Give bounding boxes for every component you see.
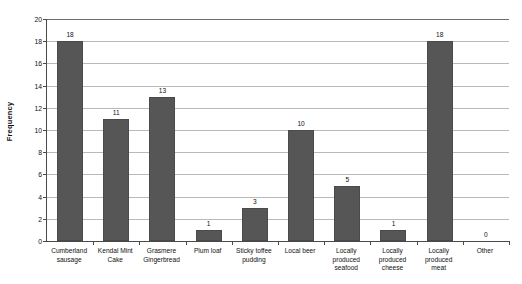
bar-chart-figure: Frequency 02468101214161820 181113131051… [0, 0, 522, 284]
bar[interactable] [149, 97, 175, 241]
y-axis-title: Frequency [2, 0, 18, 242]
bar[interactable] [427, 41, 453, 241]
x-axis-category-label-line: produced [416, 256, 462, 265]
x-axis-category-label: Plum loaf [185, 247, 231, 256]
bars-layer: 181113131051180 [47, 19, 509, 241]
y-axis-tick-label: 2 [38, 215, 42, 222]
bar-slot: 10 [278, 19, 324, 241]
y-axis-tick-label: 8 [38, 149, 42, 156]
bar-slot: 1 [370, 19, 416, 241]
y-axis-tick-label: 12 [34, 104, 42, 111]
bar-slot: 11 [93, 19, 139, 241]
x-axis-category-label-line: Cumberland [46, 247, 92, 256]
x-axis-category-label-line: Plum loaf [185, 247, 231, 256]
x-axis-category-label-line: Local beer [277, 247, 323, 256]
x-axis-category-label-line: pudding [231, 256, 277, 265]
x-axis-category-label-line: Gingerbread [138, 256, 184, 265]
x-axis-category-label-line: Grasmere [138, 247, 184, 256]
x-axis-tick-mark [93, 241, 94, 245]
y-axis-title-text: Frequency [6, 101, 15, 141]
x-axis-category-label: Other [462, 247, 508, 256]
x-axis-category-label: GrasmereGingerbread [138, 247, 184, 264]
x-axis-category-label-line: Locally [369, 247, 415, 256]
bar[interactable] [103, 119, 129, 241]
x-axis-category-label: Cumberlandsausage [46, 247, 92, 264]
bar[interactable] [57, 41, 83, 241]
y-axis-tick-label: 14 [34, 82, 42, 89]
y-axis-tick-label: 0 [38, 238, 42, 245]
plot-area: 02468101214161820 181113131051180 [46, 19, 509, 242]
x-axis-tick-mark [232, 241, 233, 245]
bar-value-label: 11 [113, 109, 120, 116]
bar-value-label: 1 [392, 220, 396, 227]
x-axis-tick-mark [463, 241, 464, 245]
x-axis-category-label: Local beer [277, 247, 323, 256]
x-axis-category-label-line: produced [323, 256, 369, 265]
bar-value-label: 18 [66, 31, 73, 38]
x-axis-category-labels: CumberlandsausageKendal MintCakeGrasmere… [46, 247, 508, 283]
x-axis-tick-mark [186, 241, 187, 245]
x-axis-category-label-line: meat [416, 264, 462, 273]
x-axis-category-label: Kendal MintCake [92, 247, 138, 264]
x-axis-category-label-line: Kendal Mint [92, 247, 138, 256]
bar[interactable] [242, 208, 268, 241]
bar[interactable] [334, 186, 360, 242]
x-axis-category-label-line: Sticky toffee [231, 247, 277, 256]
bar[interactable] [196, 230, 222, 241]
bar-slot: 3 [232, 19, 278, 241]
bar-slot: 18 [417, 19, 463, 241]
bar-value-label: 1 [207, 220, 211, 227]
x-axis-category-label-line: sausage [46, 256, 92, 265]
y-axis-tick-label: 4 [38, 193, 42, 200]
y-axis-tick-mark [43, 241, 47, 242]
bar-value-label: 0 [484, 231, 488, 238]
bar-slot: 18 [47, 19, 93, 241]
y-axis-tick-label: 16 [34, 60, 42, 67]
x-axis-tick-mark [324, 241, 325, 245]
y-axis-tick-label: 20 [34, 16, 42, 23]
bar-slot: 1 [186, 19, 232, 241]
bar-value-label: 5 [345, 176, 349, 183]
bar[interactable] [288, 130, 314, 241]
bar-value-label: 13 [159, 87, 166, 94]
x-axis-category-label-line: Locally [416, 247, 462, 256]
bar-value-label: 10 [297, 120, 304, 127]
bar[interactable] [380, 230, 406, 241]
x-axis-tick-mark [278, 241, 279, 245]
x-axis-category-label: Sticky toffeepudding [231, 247, 277, 264]
x-axis-tick-mark [370, 241, 371, 245]
x-axis-category-label: Locallyproducedmeat [416, 247, 462, 273]
x-axis-tick-mark [509, 241, 510, 245]
x-axis-category-label-line: Locally [323, 247, 369, 256]
x-axis-category-label: Locallyproducedseafood [323, 247, 369, 273]
bar-slot: 5 [324, 19, 370, 241]
x-axis-category-label-line: cheese [369, 264, 415, 273]
x-axis-category-label: Locallyproducedcheese [369, 247, 415, 273]
x-axis-tick-mark [139, 241, 140, 245]
x-axis-category-label-line: Other [462, 247, 508, 256]
bar-value-label: 18 [436, 31, 443, 38]
x-axis-category-label-line: seafood [323, 264, 369, 273]
bar-value-label: 3 [253, 198, 257, 205]
y-axis-tick-label: 6 [38, 171, 42, 178]
x-axis-tick-mark [417, 241, 418, 245]
x-axis-category-label-line: Cake [92, 256, 138, 265]
y-axis-tick-label: 18 [34, 38, 42, 45]
x-axis-category-label-line: produced [369, 256, 415, 265]
y-axis-tick-label: 10 [34, 127, 42, 134]
bar-slot: 0 [463, 19, 509, 241]
bar-slot: 13 [139, 19, 185, 241]
